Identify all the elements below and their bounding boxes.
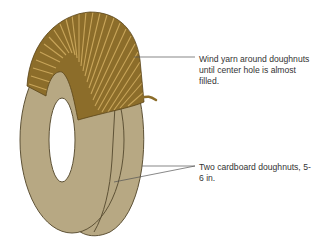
wind-yarn-label: Wind yarn around doughnuts until center … <box>199 54 311 87</box>
pompom-diagram: Wind yarn around doughnuts until center … <box>0 0 314 250</box>
cardboard-doughnut-illustration <box>0 0 314 250</box>
cardboard-doughnuts-label: Two cardboard doughnuts, 5-6 in. <box>199 162 311 184</box>
center-hole <box>49 98 75 182</box>
